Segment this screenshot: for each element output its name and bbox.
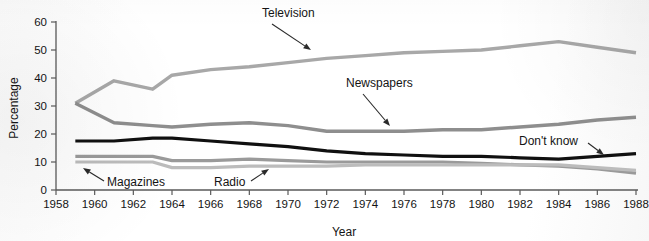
y-tick-label: 0 (41, 184, 47, 196)
x-axis-title: Year (332, 225, 356, 239)
x-tick-label: 1962 (121, 198, 147, 210)
annotation-arrow-line-magazines (89, 172, 104, 181)
x-tick-label: 1986 (585, 198, 611, 210)
x-tick-label: 1970 (275, 198, 301, 210)
x-tick-label: 1974 (353, 198, 379, 210)
x-tick-label: 1980 (469, 198, 495, 210)
annotation-label-dont-know: Don't know (519, 134, 578, 148)
x-tick-label: 1958 (43, 198, 69, 210)
annotation-label-magazines: Magazines (107, 175, 165, 189)
tick-marks-layer (51, 22, 636, 195)
annotation-arrow-head-dont-know (596, 148, 604, 155)
x-tick-labels: 1958196019621964196619681970197219741976… (43, 198, 649, 210)
media-source-line-chart: 0102030405060 19581960196219641966196819… (0, 0, 649, 241)
series-line-newspapers (75, 103, 636, 131)
annotation-arrow-line-newspapers (363, 94, 385, 120)
series-layer (75, 42, 636, 174)
annotation-newspapers: Newspapers (346, 76, 413, 126)
y-tick-label: 30 (34, 100, 47, 112)
y-tick-labels: 0102030405060 (34, 16, 47, 196)
annotation-television: Television (262, 6, 315, 50)
x-tick-label: 1966 (198, 198, 224, 210)
x-tick-label: 1976 (391, 198, 417, 210)
axis-titles-layer: Percentage Year (7, 77, 356, 239)
annotation-magazines: Magazines (83, 168, 165, 189)
annotation-arrow-line-television (272, 24, 305, 46)
y-tick-label: 10 (34, 156, 47, 168)
annotation-label-newspapers: Newspapers (346, 76, 413, 90)
x-tick-label: 1988 (623, 198, 649, 210)
y-tick-label: 50 (34, 44, 47, 56)
x-tick-label: 1984 (546, 198, 572, 210)
x-tick-label: 1982 (507, 198, 533, 210)
annotation-arrow-head-magazines (83, 168, 91, 174)
annotation-dont-know: Don't know (519, 134, 604, 155)
x-tick-label: 1960 (82, 198, 108, 210)
annotation-arrow-head-television (303, 43, 311, 50)
x-tick-label: 1972 (314, 198, 340, 210)
annotation-arrow-line-dont-know (588, 143, 598, 151)
chart-figure: 0102030405060 19581960196219641966196819… (0, 0, 649, 241)
annotation-arrow-head-radio (261, 169, 269, 176)
y-tick-label: 40 (34, 72, 47, 84)
annotation-radio: Radio (214, 169, 269, 189)
x-tick-label: 1978 (430, 198, 456, 210)
y-tick-label: 60 (34, 16, 47, 28)
x-tick-label: 1964 (159, 198, 185, 210)
annotation-label-television: Television (262, 6, 315, 20)
annotation-arrow-line-radio (251, 173, 263, 181)
annotation-label-radio: Radio (214, 175, 246, 189)
series-line-television (75, 42, 636, 104)
x-tick-label: 1968 (237, 198, 263, 210)
y-axis-title: Percentage (7, 77, 21, 139)
y-tick-label: 20 (34, 128, 47, 140)
